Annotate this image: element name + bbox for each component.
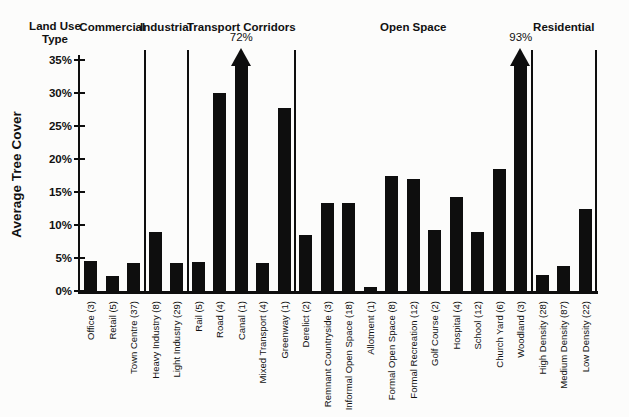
y-axis-tick [74,125,85,127]
bar [450,197,463,291]
bar [342,203,355,291]
group-separator [595,50,597,291]
y-tick-label: 15% [32,185,72,199]
bar [106,276,119,291]
y-axis-tick [74,158,85,160]
bar [385,176,398,291]
x-tick-label: Rail (5) [193,301,204,332]
y-axis-tick [74,224,85,226]
bar [127,263,140,291]
y-axis-tick [74,257,85,259]
x-tick-label: Medium Density (87) [558,301,569,389]
bar [579,209,592,292]
x-tick-label: Heavy Industry (8) [150,301,161,379]
x-tick-label: Greenway (1) [279,301,290,359]
y-tick-label: 20% [32,152,72,166]
group-separator [531,50,533,291]
x-tick-label: Office (3) [85,301,96,340]
bar [213,93,226,291]
x-axis-line [78,291,598,294]
arrow-up-icon [510,48,530,66]
bar [299,235,312,291]
x-tick-label: Allotment (1) [365,301,376,355]
x-tick-label: Church Yard (6) [494,301,505,368]
x-tick-label: Woodland (3) [515,301,526,358]
bar [493,169,506,291]
bar [557,266,570,291]
bar [428,230,441,291]
bar [170,263,183,291]
x-tick-label: Mixed Transport (4) [257,301,268,383]
group-separator [294,50,296,291]
bar [192,262,205,291]
x-tick-label: Formal Recreation (12) [408,301,419,399]
group-label: Industrial [140,21,192,33]
bar [364,287,377,291]
group-separator [187,50,189,291]
bar-value-annotation: 72% [219,31,263,43]
x-tick-label: High Density (28) [537,301,548,374]
arrow-up-icon [231,48,251,66]
x-tick-label: Light Industry (29) [171,301,182,378]
x-tick-label: Town Centre (37) [128,301,139,374]
y-axis-tick [74,59,85,61]
y-axis-line [78,55,80,291]
x-tick-label: Retail (5) [107,301,118,340]
bar-value-annotation: 93% [499,31,543,43]
bar [536,275,549,291]
bar [84,261,97,291]
x-tick-label: School (12) [472,301,483,350]
x-tick-label: Derelict (2) [300,301,311,347]
bar [321,203,334,291]
bar [278,108,291,291]
y-tick-label: 35% [32,53,72,67]
bar [256,263,269,291]
bar [471,232,484,291]
y-tick-label: 30% [32,86,72,100]
group-label: Commercial [79,21,145,33]
group-separator [144,50,146,291]
bar-clipped [235,66,248,291]
x-tick-label: Canal (1) [236,301,247,340]
bar-clipped [514,66,527,291]
y-tick-label: 0% [32,284,72,298]
y-tick-label: 5% [32,251,72,265]
y-tick-label: 25% [32,119,72,133]
x-tick-label: Informal Open Space (18) [343,301,354,410]
y-axis-tick [74,92,85,94]
group-label: Open Space [380,21,446,33]
x-tick-label: Golf Course (2) [429,301,440,366]
x-tick-label: Remnant Countryside (3) [322,301,333,407]
x-tick-label: Road (4) [214,301,225,338]
tree-cover-bar-chart: Land Use Type Average Tree Cover 0%5%10%… [0,0,629,417]
bar [149,232,162,291]
x-tick-label: Formal Open Space (8) [386,301,397,400]
y-axis-tick [74,191,85,193]
y-tick-label: 10% [32,218,72,232]
bar [407,179,420,291]
plot-area: 0%5%10%15%20%25%30%35%CommercialIndustri… [0,0,629,417]
x-tick-label: Hospital (4) [451,301,462,350]
x-tick-label: Low Density (22) [580,301,591,372]
